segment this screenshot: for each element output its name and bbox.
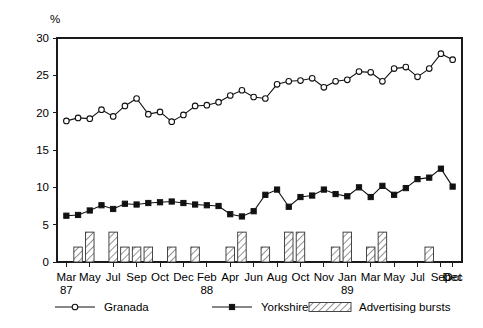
x-axis-year-label: 87 — [60, 284, 73, 296]
data-point-yorkshire — [368, 194, 373, 199]
data-point-yorkshire — [99, 203, 104, 208]
data-point-granada — [75, 115, 81, 121]
x-tick-label: Mar — [361, 271, 381, 283]
data-point-granada — [426, 66, 432, 72]
legend-label: Advertising bursts — [359, 301, 451, 313]
data-point-granada — [64, 118, 70, 124]
data-point-granada — [450, 57, 456, 63]
data-point-yorkshire — [333, 191, 338, 196]
x-tick-label: Feb — [197, 271, 217, 283]
advertising-burst-bar — [378, 232, 387, 262]
data-point-yorkshire — [274, 187, 279, 192]
x-tick-label: Dec — [173, 271, 194, 283]
data-point-yorkshire — [157, 200, 162, 205]
legend-marker-hatched-bar — [309, 303, 351, 312]
legend-label: Granada — [104, 301, 149, 313]
x-tick-label: Nov — [314, 271, 335, 283]
data-point-yorkshire — [438, 166, 443, 171]
data-point-granada — [110, 114, 116, 120]
data-point-granada — [192, 103, 198, 109]
y-tick-label: 30 — [36, 32, 49, 44]
y-tick-label: 10 — [36, 181, 49, 193]
data-point-yorkshire — [298, 194, 303, 199]
data-point-granada — [274, 81, 280, 87]
data-point-yorkshire — [403, 185, 408, 190]
data-point-yorkshire — [415, 177, 420, 182]
data-point-yorkshire — [146, 200, 151, 205]
data-point-yorkshire — [64, 213, 69, 218]
data-point-granada — [216, 99, 222, 105]
data-point-yorkshire — [450, 184, 455, 189]
advertising-burst-bar — [132, 247, 141, 262]
data-point-yorkshire — [169, 199, 174, 204]
data-point-granada — [263, 96, 269, 102]
advertising-burst-bar — [425, 247, 434, 262]
x-tick-label: Dec — [442, 271, 463, 283]
data-point-yorkshire — [239, 214, 244, 219]
data-point-yorkshire — [427, 175, 432, 180]
data-point-granada — [344, 77, 350, 83]
advertising-burst-bar — [285, 232, 294, 262]
advertising-burst-bar — [109, 232, 118, 262]
x-axis-ticks — [66, 262, 452, 267]
advertising-burst-bar — [343, 232, 352, 262]
data-point-yorkshire — [134, 202, 139, 207]
data-point-yorkshire — [345, 194, 350, 199]
data-point-yorkshire — [216, 203, 221, 208]
data-point-granada — [438, 51, 444, 57]
y-tick-label: 25 — [36, 69, 49, 81]
data-point-granada — [169, 119, 175, 125]
data-point-granada — [87, 116, 93, 122]
data-point-granada — [122, 103, 128, 109]
data-point-granada — [368, 70, 374, 76]
data-point-granada — [403, 64, 409, 70]
data-point-yorkshire — [181, 200, 186, 205]
data-point-yorkshire — [251, 209, 256, 214]
data-point-yorkshire — [380, 183, 385, 188]
x-tick-label: Aug — [267, 271, 287, 283]
data-point-granada — [286, 79, 292, 85]
advertising-bursts-line-chart: 051015202530 MarMayJulSepOctDecFebAprJun… — [0, 0, 483, 328]
data-point-granada — [99, 107, 105, 113]
data-point-granada — [134, 96, 140, 102]
advertising-burst-bar — [296, 232, 305, 262]
legend-label: Yorkshire — [261, 301, 309, 313]
data-point-granada — [251, 94, 257, 100]
data-point-granada — [146, 111, 152, 117]
advertising-burst-bar — [261, 247, 270, 262]
data-point-granada — [181, 112, 187, 118]
data-point-granada — [356, 69, 362, 75]
data-point-yorkshire — [111, 206, 116, 211]
data-point-yorkshire — [286, 204, 291, 209]
y-tick-label: 5 — [43, 219, 49, 231]
x-tick-label: May — [79, 271, 101, 283]
advertising-burst-bar — [167, 247, 176, 262]
plot-background — [57, 38, 462, 262]
data-point-granada — [309, 76, 315, 82]
data-point-granada — [204, 102, 210, 108]
legend-marker-open-circle — [72, 304, 78, 310]
data-point-granada — [239, 87, 245, 93]
data-point-yorkshire — [75, 212, 80, 217]
y-tick-label: 0 — [43, 256, 49, 268]
advertising-burst-bar — [191, 247, 200, 262]
chart-container: 051015202530 MarMayJulSepOctDecFebAprJun… — [0, 0, 483, 328]
data-point-yorkshire — [263, 192, 268, 197]
x-tick-label: Oct — [292, 271, 311, 283]
data-point-granada — [380, 79, 386, 85]
data-point-granada — [391, 66, 397, 72]
data-point-yorkshire — [356, 185, 361, 190]
x-tick-label: May — [383, 271, 405, 283]
data-point-yorkshire — [204, 203, 209, 208]
x-tick-label: Jun — [244, 271, 263, 283]
data-point-granada — [227, 93, 233, 99]
data-point-granada — [298, 78, 304, 84]
advertising-burst-bar — [331, 247, 340, 262]
data-point-yorkshire — [87, 208, 92, 213]
data-point-yorkshire — [193, 202, 198, 207]
data-point-yorkshire — [321, 187, 326, 192]
x-axis-year-label: 89 — [341, 284, 354, 296]
advertising-burst-bar — [86, 232, 95, 262]
y-tick-label: 20 — [36, 107, 49, 119]
y-tick-label: 15 — [36, 144, 49, 156]
